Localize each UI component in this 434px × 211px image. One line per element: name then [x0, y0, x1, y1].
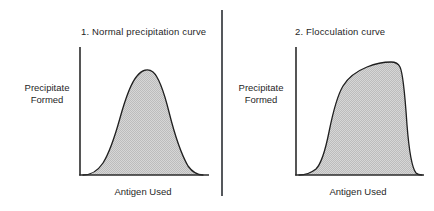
curve-area-right [299, 62, 422, 175]
panel-normal-precipitation-curve: 1. Normal precipitation curve Precipitat… [0, 0, 217, 211]
precipitation-curves-figure: 1. Normal precipitation curve Precipitat… [0, 0, 434, 211]
chart-normal-precipitation-curve [0, 0, 217, 211]
x-axis-label-right: Antigen Used [293, 186, 423, 197]
chart-flocculation-curve [217, 0, 434, 211]
panel-flocculation-curve: 2. Flocculation curve Precipitate Formed [217, 0, 434, 211]
x-axis-label-left: Antigen Used [78, 186, 208, 197]
